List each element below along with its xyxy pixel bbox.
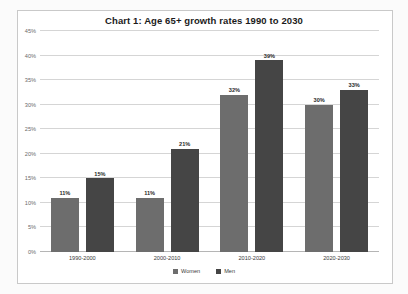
bar-rect[interactable] <box>220 95 248 252</box>
y-tick-label: 30% <box>25 102 36 108</box>
bar-men-2010-2020[interactable]: 39% <box>255 31 283 252</box>
bar-rect[interactable] <box>340 90 368 252</box>
y-tick-label: 5% <box>28 224 36 230</box>
y-tick-label: 0% <box>28 249 36 255</box>
x-tick-label: 1990-2000 <box>40 255 125 261</box>
bar-data-label: 30% <box>314 97 325 103</box>
bar-rect[interactable] <box>136 198 164 252</box>
x-tick-label: 2000-2010 <box>125 255 210 261</box>
chart-figure: Chart 1: Age 65+ growth rates 1990 to 20… <box>0 0 408 294</box>
bar-rect[interactable] <box>171 149 199 252</box>
legend-swatch-icon <box>173 269 178 274</box>
y-tick-label: 40% <box>25 53 36 59</box>
bar-rect[interactable] <box>51 198 79 252</box>
bar-group: 32%39% <box>210 31 295 252</box>
legend-label: Women <box>181 268 200 274</box>
bars-layer: 11%15%11%21%32%39%30%33% <box>40 31 379 252</box>
y-tick-label: 20% <box>25 151 36 157</box>
bar-group: 11%21% <box>125 31 210 252</box>
plot-area: 0%5%10%15%20%25%30%35%40%45% 11%15%11%21… <box>40 31 379 252</box>
bar-rect[interactable] <box>255 60 283 252</box>
x-tick-label: 2010-2020 <box>210 255 295 261</box>
bar-data-label: 39% <box>264 53 275 59</box>
bar-group: 11%15% <box>40 31 125 252</box>
y-tick-label: 15% <box>25 175 36 181</box>
bar-men-1990-2000[interactable]: 15% <box>86 31 114 252</box>
chart-title: Chart 1: Age 65+ growth rates 1990 to 20… <box>0 15 408 26</box>
legend-swatch-icon <box>216 269 221 274</box>
chart-legend: WomenMen <box>0 268 408 274</box>
legend-item-men[interactable]: Men <box>216 268 235 274</box>
bar-data-label: 11% <box>144 190 155 196</box>
bar-men-2000-2010[interactable]: 21% <box>171 31 199 252</box>
bar-rect[interactable] <box>305 105 333 252</box>
bar-data-label: 21% <box>179 141 190 147</box>
bar-women-2000-2010[interactable]: 11% <box>136 31 164 252</box>
bar-data-label: 15% <box>94 171 105 177</box>
bar-data-label: 32% <box>229 87 240 93</box>
x-tick-label: 2020-2030 <box>294 255 379 261</box>
bar-women-2010-2020[interactable]: 32% <box>220 31 248 252</box>
bar-men-2020-2030[interactable]: 33% <box>340 31 368 252</box>
bar-women-2020-2030[interactable]: 30% <box>305 31 333 252</box>
y-tick-label: 45% <box>25 28 36 34</box>
bar-rect[interactable] <box>86 178 114 252</box>
legend-item-women[interactable]: Women <box>173 268 200 274</box>
bar-women-1990-2000[interactable]: 11% <box>51 31 79 252</box>
bar-data-label: 11% <box>59 190 70 196</box>
bar-data-label: 33% <box>349 82 360 88</box>
y-tick-label: 35% <box>25 77 36 83</box>
legend-label: Men <box>224 268 235 274</box>
y-tick-label: 25% <box>25 126 36 132</box>
x-axis-tick-labels: 1990-20002000-20102010-20202020-2030 <box>40 255 379 261</box>
y-tick-label: 10% <box>25 200 36 206</box>
bar-group: 30%33% <box>294 31 379 252</box>
